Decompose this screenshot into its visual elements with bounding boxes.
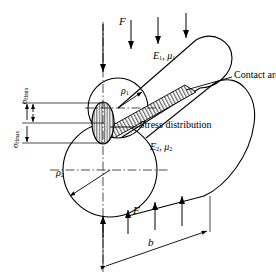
rho2-radius-line [70,170,110,196]
stress-distribution-label: Stress distribution [139,120,212,130]
sigma-hmax-label: σHmax [11,131,20,148]
sigma-hmin-subscript: Hmin [23,88,29,100]
force-bottom-label: F [133,205,140,216]
rho2-label: ρ2 [56,168,64,179]
b-dimension-line [106,231,207,266]
width-b-label: b [148,237,154,248]
sigma-hmin-symbol: σ [19,100,29,104]
mu1-symbol: , μ [162,50,172,61]
sigma-hmin-label: σHmin [20,88,29,104]
rho1-label: ρ1 [121,86,129,97]
sigma-hmax-subscript: Hmax [14,131,20,144]
load-arrows-top [103,13,186,72]
mu1-subscript: 1 [172,54,175,61]
mu2-subscript: 2 [169,145,172,152]
rho1-subscript: 1 [126,89,129,96]
b-extension-lines [103,196,210,272]
contact-area-label: Contact area [234,70,276,80]
mu2-symbol: , μ [159,141,169,152]
force-top-label: F [119,16,126,27]
rho2-subscript: 2 [61,171,64,178]
sigma-extension-lines [22,103,104,143]
upper-cylinder-material-label: E1, μ1 [153,51,175,62]
hertzian-contact-diagram: F F ρ1 ρ2 E1, μ1 E2, μ2 Contact area Str… [0,0,276,280]
diagram-canvas [0,0,276,280]
sigma-hmax-symbol: σ [10,144,20,148]
lower-cylinder-material-label: E2, μ2 [150,142,172,153]
contact-area-band [104,85,196,138]
